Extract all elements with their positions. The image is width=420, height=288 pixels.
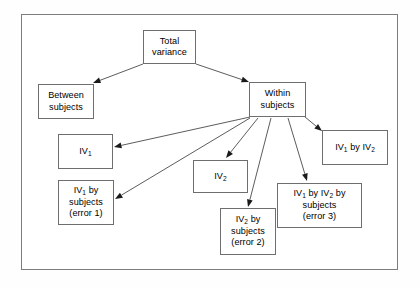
node-iv1_iv2_by_subjects: IV1 by IV2 by subjects (error 3) — [277, 183, 362, 228]
node-between_subjects: Between subjects — [38, 84, 94, 119]
node-within_subjects: Within subjects — [249, 82, 306, 117]
node-label: IV1 by IV2 — [335, 142, 375, 153]
node-iv2_by_subjects: IV2 by subjects (error 2) — [220, 208, 276, 255]
node-label: IV1 by IV2 by subjects (error 3) — [294, 188, 346, 222]
node-total_variance: Total variance — [143, 30, 196, 64]
diagram-canvas: Total varianceBetween subjectsWithin sub… — [0, 0, 420, 288]
node-label: Total variance — [152, 36, 187, 59]
node-iv1_by_iv2: IV1 by IV2 — [322, 130, 388, 165]
node-label: IV1 by subjects (error 1) — [69, 185, 103, 219]
node-label: Within subjects — [261, 88, 295, 111]
node-label: Between subjects — [48, 90, 84, 113]
node-label: IV1 — [79, 146, 91, 157]
node-label: IV2 by subjects (error 2) — [231, 214, 265, 248]
node-iv1: IV1 — [58, 134, 113, 169]
node-iv2: IV2 — [193, 160, 248, 193]
node-iv1_by_subjects: IV1 by subjects (error 1) — [58, 180, 114, 225]
node-label: IV2 — [214, 171, 226, 182]
